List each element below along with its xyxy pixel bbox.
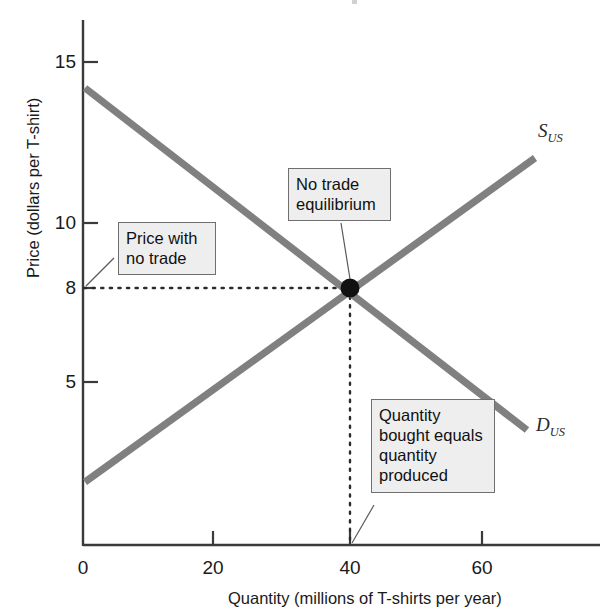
demand-curve-label-dus: DUS bbox=[536, 414, 565, 440]
supply-curve-label-sus: SUS bbox=[538, 120, 563, 146]
equilibrium-point-marker bbox=[341, 279, 360, 298]
x-tick-label-60: 60 bbox=[462, 557, 502, 579]
callout-price-with-no-trade: Price with no trade bbox=[118, 222, 216, 275]
callout-price-line-1: Price with bbox=[126, 228, 208, 248]
y-tick-label-8: 8 bbox=[34, 277, 76, 299]
x-tick-label-0: 0 bbox=[69, 557, 97, 579]
supply-curve-label-letter: S bbox=[538, 120, 548, 141]
callout-quantity-bought-equals-produced: Quantity bought equals quantity produced bbox=[371, 399, 495, 493]
callout-price-line-2: no trade bbox=[126, 248, 208, 268]
leader-line-no-trade-equilibrium bbox=[341, 223, 350, 279]
leader-line-quantity-note bbox=[352, 505, 374, 543]
x-axis-title: Quantity (millions of T-shirts per year) bbox=[228, 589, 502, 608]
demand-curve-label-letter: D bbox=[536, 414, 550, 435]
callout-quantity-line-1: Quantity bbox=[379, 405, 487, 425]
callout-equilibrium-line-1: No trade bbox=[296, 174, 383, 194]
chart-canvas bbox=[0, 0, 614, 616]
chart-figure: 15 10 8 5 0 20 40 60 Price (dollars per … bbox=[0, 0, 614, 616]
x-tick-label-40: 40 bbox=[330, 557, 370, 579]
y-tick-label-15: 15 bbox=[34, 51, 76, 73]
x-tick-label-20: 20 bbox=[193, 557, 233, 579]
callout-equilibrium-line-2: equilibrium bbox=[296, 194, 383, 214]
callout-quantity-line-3: quantity bbox=[379, 445, 487, 465]
callout-quantity-line-4: produced bbox=[379, 465, 487, 485]
supply-curve-label-subscript: US bbox=[548, 131, 563, 145]
y-axis-title: Price (dollars per T-shirt) bbox=[24, 98, 43, 278]
y-tick-label-5: 5 bbox=[34, 371, 76, 393]
callout-no-trade-equilibrium: No trade equilibrium bbox=[288, 168, 391, 221]
callout-quantity-line-2: bought equals bbox=[379, 425, 487, 445]
demand-curve-label-subscript: US bbox=[550, 425, 565, 439]
leader-line-price-with-no-trade bbox=[86, 258, 114, 286]
